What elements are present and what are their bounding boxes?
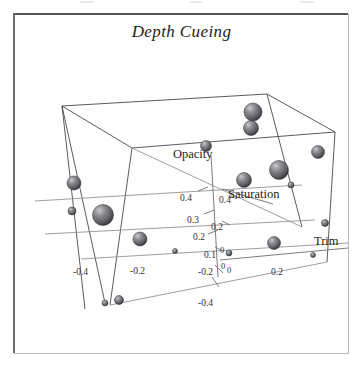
data-point (268, 237, 281, 250)
tick-label: 0.3 (187, 215, 199, 225)
data-point (102, 300, 108, 306)
tick-label: 0.2 (193, 232, 205, 242)
tick-label: 0.2 (211, 222, 223, 232)
data-point (311, 253, 316, 258)
data-point (237, 173, 252, 188)
tick-label: 0 (227, 265, 231, 275)
figure-frame: Depth Cueing (14, 14, 349, 354)
data-point (288, 182, 294, 188)
tick-label: 0.2 (271, 267, 283, 277)
data-point (67, 176, 81, 190)
data-point (244, 121, 259, 136)
tick-label: 0.4 (180, 193, 192, 203)
data-point (68, 207, 76, 215)
data-point (312, 146, 325, 159)
data-point (322, 220, 329, 227)
scan-artifact-row (0, 0, 363, 6)
data-point (115, 296, 124, 305)
axis-label-saturation: Saturation (228, 187, 279, 202)
data-point (244, 103, 262, 121)
tick-label: -0.4 (73, 267, 88, 277)
tick-label: -0.4 (198, 298, 213, 308)
tick-label: 0.1 (204, 250, 216, 260)
data-point (270, 161, 289, 180)
tick-label: -0.2 (198, 267, 213, 277)
data-point (133, 232, 147, 246)
tick-label: 0.4 (219, 195, 231, 205)
scan-mark (300, 1, 314, 3)
data-point (173, 249, 178, 254)
tick-label: 0 (220, 245, 224, 255)
tick-label: -0.2 (130, 266, 145, 276)
scan-mark (80, 1, 94, 3)
scan-mark (190, 1, 202, 3)
axis-label-opacity: Opacity (173, 147, 213, 162)
plot-canvas (15, 15, 348, 353)
data-point (226, 250, 232, 256)
scatter-plot-3d: Opacity Saturation Trim 0.4 0.3 0.2 0.4 … (15, 15, 348, 353)
data-point (93, 205, 114, 226)
tick-label: 0 (221, 261, 225, 271)
axis-label-trim: Trim (314, 234, 339, 249)
